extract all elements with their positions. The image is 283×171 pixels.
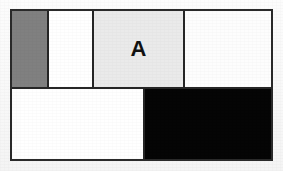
cell-bottom-2[interactable] bbox=[145, 89, 271, 159]
cell-top-3[interactable]: A bbox=[94, 11, 185, 87]
grid-table: A bbox=[10, 9, 273, 161]
table-row-top: A bbox=[12, 11, 271, 89]
cell-top-1[interactable] bbox=[12, 11, 49, 87]
cell-top-3-label: A bbox=[131, 38, 147, 60]
cell-top-2[interactable] bbox=[49, 11, 94, 87]
cell-bottom-1[interactable] bbox=[12, 89, 145, 159]
page-background: A bbox=[0, 0, 283, 171]
table-row-bottom bbox=[12, 89, 271, 159]
cell-top-4[interactable] bbox=[185, 11, 271, 87]
